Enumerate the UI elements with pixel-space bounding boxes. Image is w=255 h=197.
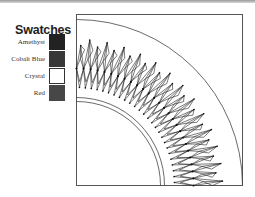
tile-band — [77, 40, 223, 185]
diagram-frame — [77, 15, 243, 186]
bead-pattern-diagram — [0, 0, 255, 197]
